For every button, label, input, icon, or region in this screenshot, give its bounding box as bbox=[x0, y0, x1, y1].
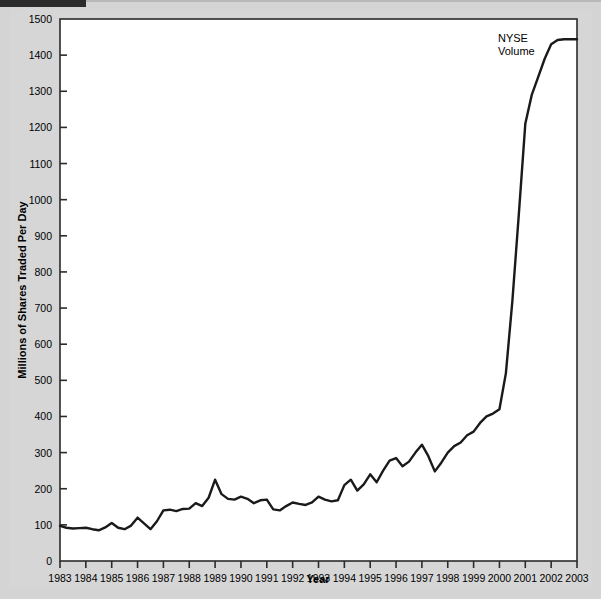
scan-edge-top bbox=[0, 0, 601, 2]
y-axis-tick-label: 700 bbox=[34, 302, 52, 314]
x-axis-tick-label: 2001 bbox=[514, 572, 538, 584]
series-annotation-line1: NYSE bbox=[498, 32, 528, 44]
x-axis-title: Year bbox=[306, 573, 330, 585]
y-axis-tick-label: 0 bbox=[46, 555, 52, 567]
y-axis-tick-label: 1400 bbox=[29, 49, 53, 61]
page-background: 0100200300400500600700800900100011001200… bbox=[0, 0, 601, 599]
x-axis-tick-label: 1996 bbox=[384, 572, 408, 584]
x-axis-tick-label: 1989 bbox=[203, 572, 227, 584]
x-axis-tick-label: 2000 bbox=[488, 572, 512, 584]
x-axis-tick-label: 1995 bbox=[359, 572, 383, 584]
y-axis-tick-label: 300 bbox=[34, 447, 52, 459]
x-axis-tick-label: 1992 bbox=[281, 572, 305, 584]
x-axis-tick-label: 1983 bbox=[48, 572, 72, 584]
y-axis-tick-label: 1500 bbox=[29, 13, 53, 25]
x-axis-tick-label: 2003 bbox=[565, 572, 589, 584]
y-axis-tick-label: 900 bbox=[34, 230, 52, 242]
x-axis-tick-label: 1987 bbox=[152, 572, 176, 584]
chart-figure: 0100200300400500600700800900100011001200… bbox=[10, 9, 592, 587]
x-axis-tick-label: 1990 bbox=[229, 572, 253, 584]
y-axis-tick-label: 1000 bbox=[29, 194, 53, 206]
x-axis-tick-label: 1997 bbox=[410, 572, 434, 584]
x-axis-tick-label: 1998 bbox=[436, 572, 460, 584]
x-axis-tick-label: 1986 bbox=[126, 572, 150, 584]
x-axis-tick-label: 1999 bbox=[462, 572, 486, 584]
x-axis-tick-label: 1994 bbox=[333, 572, 357, 584]
y-axis-tick-label: 1200 bbox=[29, 121, 53, 133]
x-axis-tick-label: 1985 bbox=[100, 572, 124, 584]
scan-artifact-bar bbox=[0, 0, 86, 7]
y-axis-tick-label: 800 bbox=[34, 266, 52, 278]
x-axis-tick-label: 1984 bbox=[74, 572, 98, 584]
y-axis-tick-label: 500 bbox=[34, 374, 52, 386]
y-axis-tick-label: 1100 bbox=[29, 158, 52, 170]
y-axis-title: Millions of Shares Traded Per Day bbox=[16, 200, 28, 378]
y-axis-tick-label: 100 bbox=[34, 519, 52, 531]
x-axis-tick-label: 1988 bbox=[178, 572, 202, 584]
y-axis-tick-label: 600 bbox=[34, 338, 52, 350]
x-axis-tick-label: 2002 bbox=[539, 572, 563, 584]
y-axis-tick-label: 400 bbox=[34, 410, 52, 422]
y-axis-tick-label: 1300 bbox=[29, 85, 53, 97]
x-axis-tick-label: 1991 bbox=[255, 572, 279, 584]
nyse-volume-line-chart: 0100200300400500600700800900100011001200… bbox=[10, 9, 592, 587]
y-axis-tick-label: 200 bbox=[34, 483, 52, 495]
series-annotation-line2: Volume bbox=[498, 45, 535, 57]
plot-area-background bbox=[60, 19, 577, 561]
